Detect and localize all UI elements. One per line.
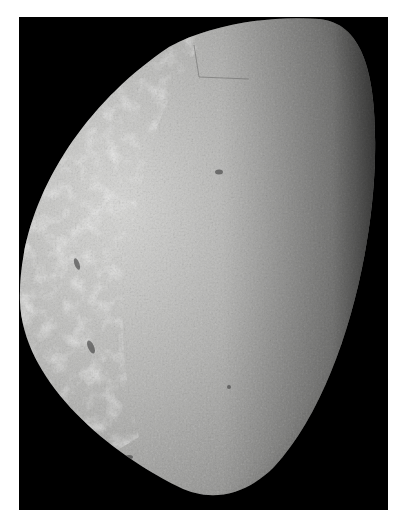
photo-frame [19,17,388,510]
moon-photo [19,17,388,510]
